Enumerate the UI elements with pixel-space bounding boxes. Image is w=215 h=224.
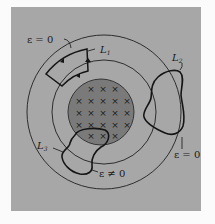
svg-text:×: × <box>123 120 131 130</box>
svg-text:×: × <box>111 84 119 94</box>
svg-text:×: × <box>87 84 95 94</box>
leader-line-l2 <box>180 63 182 70</box>
leader-line-l1 <box>88 49 95 51</box>
svg-text:×: × <box>111 131 119 141</box>
svg-text:×: × <box>99 96 107 106</box>
svg-text:×: × <box>87 131 95 141</box>
svg-text:×: × <box>87 108 95 118</box>
svg-text:×: × <box>111 120 119 130</box>
leader-line-l3 <box>53 148 63 152</box>
label-emf-zero-right: ε = 0 <box>174 149 200 160</box>
svg-text:×: × <box>99 108 107 118</box>
svg-text:×: × <box>75 120 83 130</box>
svg-text:×: × <box>75 96 83 106</box>
arrow-icon <box>85 58 91 62</box>
label-l2: L2 <box>171 52 183 64</box>
emf-loops-diagram: ××× ××××× ××××× ××××× ××× L1 ε = 0 L2 ε … <box>0 0 215 224</box>
svg-text:×: × <box>111 108 119 118</box>
label-emf-nonzero: ε ≠ 0 <box>99 168 125 179</box>
leader-line-emf-nonzero <box>92 170 98 172</box>
loop-l2 <box>144 70 184 134</box>
svg-text:×: × <box>99 84 107 94</box>
svg-text:×: × <box>123 108 131 118</box>
leader-line-emf-top <box>64 39 71 48</box>
svg-text:×: × <box>87 96 95 106</box>
svg-text:×: × <box>111 96 119 106</box>
svg-text:×: × <box>123 96 131 106</box>
svg-text:×: × <box>75 108 83 118</box>
label-emf-zero-top: ε = 0 <box>27 34 53 45</box>
label-l3: L3 <box>36 140 48 152</box>
svg-text:×: × <box>99 131 107 141</box>
label-l1: L1 <box>99 44 110 56</box>
